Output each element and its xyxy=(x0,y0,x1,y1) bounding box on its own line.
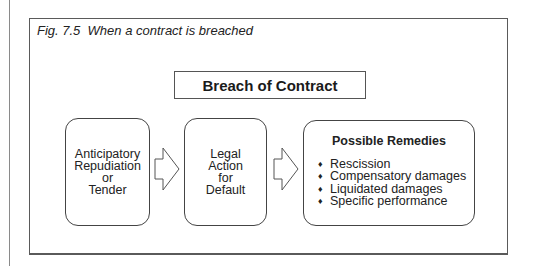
diamond-bullet-icon: ♦ xyxy=(318,158,326,170)
title-text: Breach of Contract xyxy=(202,77,337,94)
arrow-right-icon xyxy=(154,147,180,191)
breach-of-contract-title-box: Breach of Contract xyxy=(174,71,366,99)
diamond-bullet-icon: ♦ xyxy=(318,183,326,195)
remedies-box: Possible Remedies ♦ Rescission ♦ Compens… xyxy=(303,120,475,226)
remedies-list: ♦ Rescission ♦ Compensatory damages ♦ Li… xyxy=(318,158,466,207)
list-item: ♦ Specific performance xyxy=(318,195,466,207)
stage-box-legal-action: Legal Action for Default xyxy=(184,118,267,226)
stage-box-anticipatory-repudiation: Anticipatory Repudiation or Tender xyxy=(65,118,150,226)
stage-line: Tender xyxy=(88,184,126,196)
figure-caption: Fig. 7.5 When a contract is breached xyxy=(37,23,253,38)
diamond-bullet-icon: ♦ xyxy=(318,170,326,182)
list-item: ♦ Compensatory damages xyxy=(318,170,466,182)
stage-line: Default xyxy=(206,184,246,196)
arrow-right-icon xyxy=(273,147,299,191)
remedy-label: Specific performance xyxy=(330,195,447,207)
remedy-label: Compensatory damages xyxy=(330,170,466,182)
page-margin-line xyxy=(9,0,10,266)
remedies-title: Possible Remedies xyxy=(332,135,446,147)
diamond-bullet-icon: ♦ xyxy=(318,195,326,207)
